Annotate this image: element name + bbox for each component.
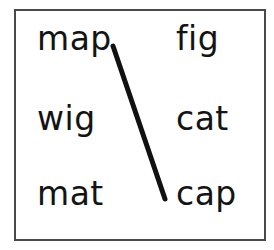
word-left-1[interactable]: map	[37, 22, 112, 55]
word-right-3[interactable]: cap	[176, 177, 237, 210]
word-left-3[interactable]: mat	[37, 177, 104, 210]
worksheet-canvas: map wig mat fig cat cap	[0, 0, 274, 250]
word-right-2[interactable]: cat	[176, 102, 229, 135]
word-right-1[interactable]: fig	[176, 22, 219, 55]
word-left-2[interactable]: wig	[37, 102, 96, 135]
